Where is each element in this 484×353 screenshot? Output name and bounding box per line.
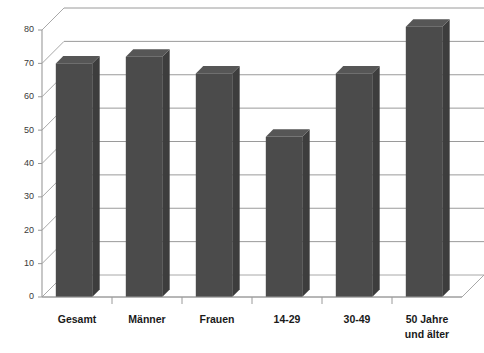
x-axis-label: und älter (405, 328, 449, 340)
bar-side-face (162, 49, 169, 297)
category-separator-group (112, 297, 392, 304)
bar-front-face (126, 57, 162, 297)
bar-front-face (56, 63, 92, 297)
bar-top-face (336, 66, 380, 73)
chart-canvas: 01020304050607080 GesamtMännerFrauen14-2… (0, 0, 484, 353)
bar-top-face (266, 129, 310, 136)
bar-männer (126, 49, 170, 297)
bar-front-face (196, 73, 232, 297)
depth-connector-80 (42, 8, 64, 30)
bar-front-face (406, 27, 442, 297)
x-axis-label: Frauen (199, 313, 234, 325)
bar-14-29 (266, 129, 310, 297)
bar-gesamt (56, 56, 100, 297)
y-tick-label: 60 (24, 91, 34, 101)
x-axis-label: 30-49 (344, 313, 371, 325)
bar-top-face (196, 66, 240, 73)
bar-chart: 01020304050607080 GesamtMännerFrauen14-2… (0, 0, 484, 353)
bar-30-49 (336, 66, 380, 297)
bar-side-face (232, 66, 239, 297)
bar-top-face (126, 49, 170, 56)
x-axis-label: 14-29 (274, 313, 301, 325)
y-tick-label: 80 (24, 24, 34, 34)
bar-front-face (336, 73, 372, 297)
y-tick-label: 30 (24, 191, 34, 201)
bar-side-face (372, 66, 379, 297)
y-tickmarks-group (38, 30, 42, 297)
y-tick-label: 50 (24, 125, 34, 135)
y-axis-labels-group: 01020304050607080 (24, 24, 34, 301)
bar-side-face (442, 19, 449, 297)
x-axis-label: Männer (128, 313, 165, 325)
y-tick-label: 10 (24, 258, 34, 268)
y-tick-label: 40 (24, 158, 34, 168)
bar-front-face (266, 137, 302, 297)
y-tick-label: 0 (29, 291, 34, 301)
bar-50-jahre-und-älter (406, 19, 450, 297)
x-axis-labels-group: GesamtMännerFrauen14-2930-4950 Jahreund … (58, 313, 449, 340)
bars-group (56, 19, 450, 297)
bar-frauen (196, 66, 240, 297)
bar-top-face (56, 56, 100, 63)
bar-side-face (302, 129, 309, 297)
x-axis-label: 50 Jahre (406, 313, 449, 325)
x-axis-label: Gesamt (58, 313, 97, 325)
bar-side-face (92, 56, 99, 297)
y-tick-label: 70 (24, 58, 34, 68)
y-tick-label: 20 (24, 225, 34, 235)
bar-top-face (406, 19, 450, 26)
